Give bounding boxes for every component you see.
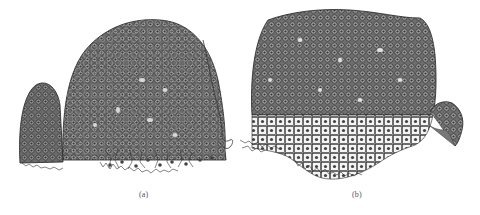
- panel-a-illustration: [0, 0, 240, 215]
- meristem-a-drawing: [0, 0, 240, 215]
- panel-b-illustration: [240, 0, 480, 215]
- meristem-b-drawing: [240, 0, 480, 215]
- panel-b-label: (b): [352, 190, 362, 199]
- panel-a-label: (a): [139, 190, 148, 199]
